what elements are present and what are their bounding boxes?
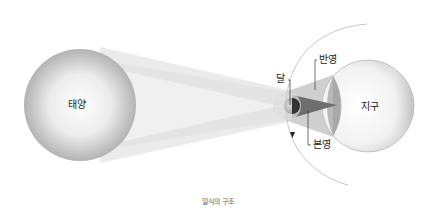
moon — [273, 92, 301, 120]
figure-caption: 일식의 구조 — [0, 196, 436, 206]
solar-eclipse-diagram: 태양 달 반영 본영 지구 일식의 구조 — [0, 0, 436, 211]
sun-label: 태양 — [68, 100, 86, 110]
penumbra-label: 반영 — [319, 55, 337, 65]
earth-label: 지구 — [361, 102, 379, 112]
umbra-label: 본영 — [313, 140, 331, 150]
moon-label: 달 — [276, 74, 285, 84]
